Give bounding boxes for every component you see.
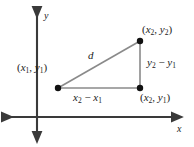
point-2-x-var: x bbox=[146, 23, 151, 35]
point-1-y-var: y bbox=[35, 61, 40, 73]
point-1-x-sub: 1 bbox=[26, 66, 30, 75]
point-3-x-var: x bbox=[144, 91, 149, 103]
point-2-y-var: y bbox=[160, 23, 165, 35]
vertical-leg-b-sub: 1 bbox=[172, 61, 176, 70]
vertical-leg-a-sub: 2 bbox=[152, 61, 156, 70]
point-1-paren-close: ) bbox=[43, 61, 47, 73]
point-2-label: (x2, y2) bbox=[142, 24, 172, 35]
horizontal-leg-label: x2 − x1 bbox=[73, 92, 102, 103]
point-1-y-sub: 1 bbox=[40, 66, 44, 75]
point-2-dot bbox=[137, 38, 143, 44]
point-2-x-sub: 2 bbox=[151, 28, 155, 37]
point-3-x-sub: 2 bbox=[149, 96, 153, 105]
y-axis-label: y bbox=[44, 11, 48, 21]
x-axis-label: x bbox=[177, 124, 181, 134]
vertical-leg-operator: − bbox=[156, 56, 168, 68]
point-1-x-var: x bbox=[21, 61, 26, 73]
horizontal-leg-b-sub: 1 bbox=[98, 96, 102, 105]
point-3-y-sub: 1 bbox=[163, 96, 167, 105]
point-1-label: (x1, y1) bbox=[17, 62, 47, 73]
distance-formula-figure: (x1, y1) (x2, y2) (x2, y1) y2 − y1 x2 − … bbox=[0, 0, 194, 147]
horizontal-leg-a-sub: 2 bbox=[78, 96, 82, 105]
horizontal-leg-operator: − bbox=[82, 91, 94, 103]
point-3-y-var: y bbox=[158, 91, 163, 103]
vertical-leg-label: y2 − y1 bbox=[147, 57, 176, 68]
point-2-paren-close: ) bbox=[168, 23, 172, 35]
hypotenuse-line bbox=[58, 41, 140, 88]
point-3-paren-close: ) bbox=[166, 91, 170, 103]
point-2-y-sub: 2 bbox=[165, 28, 169, 37]
point-1-dot bbox=[55, 85, 61, 91]
distance-label: d bbox=[88, 50, 94, 61]
point-3-label: (x2, y1) bbox=[140, 92, 170, 103]
